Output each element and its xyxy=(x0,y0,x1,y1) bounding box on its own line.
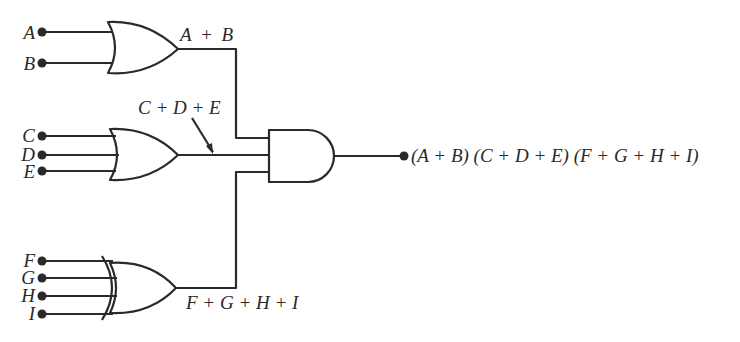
wire-or1-to-and xyxy=(178,49,269,138)
terminal-dots xyxy=(38,28,409,319)
input-label-i: I xyxy=(21,304,35,323)
input-label-a: A xyxy=(21,23,35,42)
or3-output-label: F + G + H + I xyxy=(186,293,298,312)
and-gate xyxy=(269,130,404,182)
input-label-c: C xyxy=(21,126,35,145)
input-label-b: B xyxy=(21,54,35,73)
or-gate-1 xyxy=(42,22,269,138)
wire-or3-to-and xyxy=(176,172,269,288)
circuit-wiring xyxy=(0,0,740,342)
logic-circuit-diagram: A B C D E F G H I A + B C + D + E F + G … xyxy=(0,0,740,342)
final-output-label: (A + B) (C + D + E) (F + G + H + I) xyxy=(411,146,699,165)
or2-output-label: C + D + E xyxy=(138,98,221,117)
or1-output-label: A + B xyxy=(180,25,233,44)
input-label-e: E xyxy=(21,162,35,181)
